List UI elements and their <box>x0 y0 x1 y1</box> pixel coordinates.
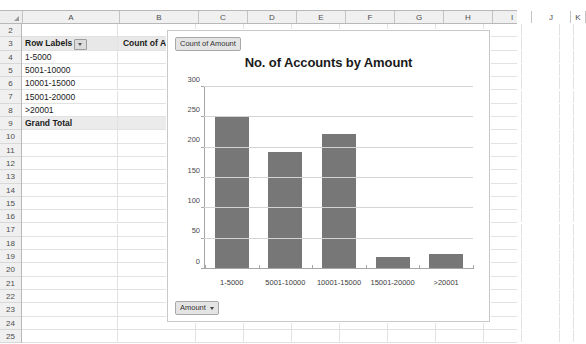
pivot-chart[interactable]: Count of Amount No. of Accounts by Amoun… <box>167 30 490 322</box>
row-header-15[interactable]: 15 <box>0 197 21 210</box>
cell-K17[interactable] <box>560 224 574 236</box>
cell-A4[interactable]: 1-5000 <box>22 51 118 63</box>
cell-J18[interactable] <box>522 237 560 249</box>
cell-A8[interactable]: >20001 <box>22 104 118 116</box>
row-header-18[interactable]: 18 <box>0 237 21 250</box>
cell-K22[interactable] <box>560 290 574 302</box>
row-header-16[interactable]: 16 <box>0 210 21 223</box>
cell-J17[interactable] <box>522 224 560 236</box>
bar[interactable] <box>268 152 302 269</box>
cell-K18[interactable] <box>560 237 574 249</box>
cell-B25[interactable] <box>118 330 196 342</box>
table-row[interactable] <box>22 330 517 343</box>
row-header-14[interactable]: 14 <box>0 184 21 197</box>
cell-J14[interactable] <box>522 184 560 196</box>
cell-J2[interactable] <box>522 24 560 36</box>
column-header-g[interactable]: G <box>395 11 444 23</box>
row-header-8[interactable]: 8 <box>0 104 21 117</box>
cell-C25[interactable] <box>196 330 244 342</box>
cell-J10[interactable] <box>522 130 560 142</box>
cell-K21[interactable] <box>560 277 574 289</box>
cell-J4[interactable] <box>522 51 560 63</box>
column-header-h[interactable]: H <box>444 11 493 23</box>
cell-K13[interactable] <box>560 170 574 182</box>
cell-A13[interactable] <box>22 170 118 182</box>
cell-A5[interactable]: 5001-10000 <box>22 64 118 76</box>
cell-J11[interactable] <box>522 144 560 156</box>
cell-J9[interactable] <box>522 117 560 129</box>
column-header-b[interactable]: B <box>120 11 199 23</box>
cell-F25[interactable] <box>340 330 388 342</box>
row-header-17[interactable]: 17 <box>0 223 21 236</box>
row-header-5[interactable]: 5 <box>0 64 21 77</box>
cell-D25[interactable] <box>244 330 292 342</box>
cell-A9[interactable]: Grand Total <box>22 117 118 129</box>
cell-K12[interactable] <box>560 157 574 169</box>
cell-G25[interactable] <box>388 330 436 342</box>
cell-J6[interactable] <box>522 77 560 89</box>
row-header-7[interactable]: 7 <box>0 90 21 103</box>
cell-A10[interactable] <box>22 130 118 142</box>
cell-K11[interactable] <box>560 144 574 156</box>
cell-K8[interactable] <box>560 104 574 116</box>
column-header-d[interactable]: D <box>248 11 297 23</box>
cell-J13[interactable] <box>522 170 560 182</box>
cell-K9[interactable] <box>560 117 574 129</box>
row-header-6[interactable]: 6 <box>0 77 21 90</box>
row-header-13[interactable]: 13 <box>0 170 21 183</box>
cell-K10[interactable] <box>560 130 574 142</box>
column-header-a[interactable]: A <box>23 11 120 23</box>
cell-A7[interactable]: 15001-20000 <box>22 91 118 103</box>
row-header-9[interactable]: 9 <box>0 117 21 130</box>
cell-J19[interactable] <box>522 250 560 262</box>
cell-J16[interactable] <box>522 210 560 222</box>
row-header-4[interactable]: 4 <box>0 51 21 64</box>
cell-J7[interactable] <box>522 91 560 103</box>
cell-A20[interactable] <box>22 263 118 275</box>
cell-J12[interactable] <box>522 157 560 169</box>
cell-J23[interactable] <box>522 303 560 315</box>
cell-J8[interactable] <box>522 104 560 116</box>
cell-J24[interactable] <box>522 317 560 329</box>
select-all-corner[interactable] <box>0 11 23 23</box>
row-header-12[interactable]: 12 <box>0 157 21 170</box>
cell-J22[interactable] <box>522 290 560 302</box>
cell-A23[interactable] <box>22 303 118 315</box>
row-header-11[interactable]: 11 <box>0 144 21 157</box>
column-header-j[interactable]: J <box>532 11 571 23</box>
bar[interactable] <box>322 134 356 269</box>
cell-K20[interactable] <box>560 263 574 275</box>
cell-J15[interactable] <box>522 197 560 209</box>
bar[interactable] <box>215 116 249 269</box>
cell-A6[interactable]: 10001-15000 <box>22 77 118 89</box>
column-header-e[interactable]: E <box>297 11 346 23</box>
legend-field-button[interactable]: Count of Amount <box>175 37 241 51</box>
cell-J20[interactable] <box>522 263 560 275</box>
row-header-10[interactable]: 10 <box>0 130 21 143</box>
cell-A24[interactable] <box>22 317 118 329</box>
cell-K2[interactable] <box>560 24 574 36</box>
cell-A19[interactable] <box>22 250 118 262</box>
column-header-f[interactable]: F <box>346 11 395 23</box>
row-header-21[interactable]: 21 <box>0 277 21 290</box>
cell-A14[interactable] <box>22 184 118 196</box>
cell-J3[interactable] <box>522 37 560 49</box>
cell-K25[interactable] <box>560 330 574 342</box>
cell-K6[interactable] <box>560 77 574 89</box>
row-header-22[interactable]: 22 <box>0 290 21 303</box>
cell-K3[interactable] <box>560 37 574 49</box>
cell-K5[interactable] <box>560 64 574 76</box>
row-header-23[interactable]: 23 <box>0 303 21 316</box>
cell-J5[interactable] <box>522 64 560 76</box>
column-header-k[interactable]: K <box>571 11 586 23</box>
column-header-c[interactable]: C <box>199 11 248 23</box>
cell-K19[interactable] <box>560 250 574 262</box>
row-header-25[interactable]: 25 <box>0 330 21 343</box>
cell-K16[interactable] <box>560 210 574 222</box>
row-header-20[interactable]: 20 <box>0 263 21 276</box>
cell-H25[interactable] <box>436 330 484 342</box>
row-header-24[interactable]: 24 <box>0 317 21 330</box>
cell-A16[interactable] <box>22 210 118 222</box>
filter-dropdown-icon[interactable] <box>74 39 87 50</box>
cell-A17[interactable] <box>22 224 118 236</box>
